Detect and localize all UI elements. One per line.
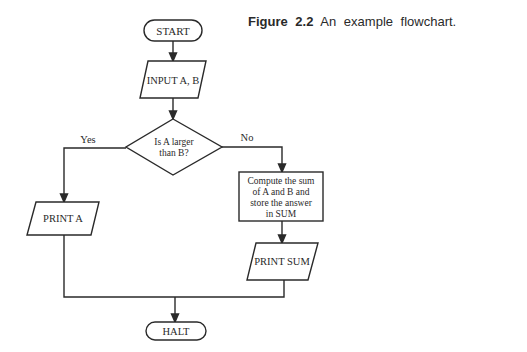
halt-label: HALT bbox=[162, 326, 190, 337]
yes-label: Yes bbox=[80, 134, 95, 145]
caption-number: 2.2 bbox=[295, 14, 313, 29]
process-label-line3: store the answer bbox=[250, 198, 313, 208]
no-label: No bbox=[241, 132, 254, 143]
print-sum-label: PRINT SUM bbox=[254, 256, 310, 267]
flowchart-figure: START INPUT A, B Is A larger than B? Yes… bbox=[0, 0, 527, 352]
decision-label-line1: Is A larger bbox=[154, 137, 194, 147]
no-branch-line bbox=[222, 147, 282, 172]
caption-label: Figure bbox=[248, 14, 288, 29]
yes-branch-line bbox=[64, 148, 126, 202]
decision-label-line2: than B? bbox=[159, 148, 188, 158]
process-label-line2: of A and B and bbox=[253, 187, 310, 197]
start-label: START bbox=[156, 25, 190, 37]
decision-diamond bbox=[126, 119, 222, 175]
caption-text: An example flowchart. bbox=[320, 14, 456, 29]
input-label: INPUT A, B bbox=[147, 75, 200, 86]
process-label-line1: Compute the sum bbox=[247, 176, 315, 186]
process-label-line4: in SUM bbox=[266, 209, 297, 219]
figure-caption: Figure 2.2 An example flowchart. bbox=[248, 14, 456, 29]
print-a-label: PRINT A bbox=[43, 213, 83, 224]
